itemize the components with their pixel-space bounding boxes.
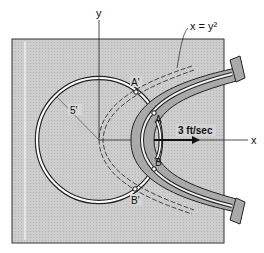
- pin-A-prime: [134, 90, 138, 94]
- label-B: B: [155, 157, 162, 168]
- diagram-canvas: 5' 3 ft/sec y x x = y² A' B' A B: [0, 0, 264, 253]
- label-B-prime: B': [131, 195, 140, 206]
- pin-B-prime: [133, 187, 137, 191]
- radius-label: 5': [70, 105, 78, 116]
- velocity-label: 3 ft/sec: [178, 125, 213, 136]
- label-A: A: [155, 114, 162, 125]
- x-axis-label: x: [251, 134, 257, 146]
- label-A-prime: A': [131, 77, 140, 88]
- y-axis-label: y: [96, 7, 102, 19]
- curve-equation-label: x = y²: [190, 20, 218, 32]
